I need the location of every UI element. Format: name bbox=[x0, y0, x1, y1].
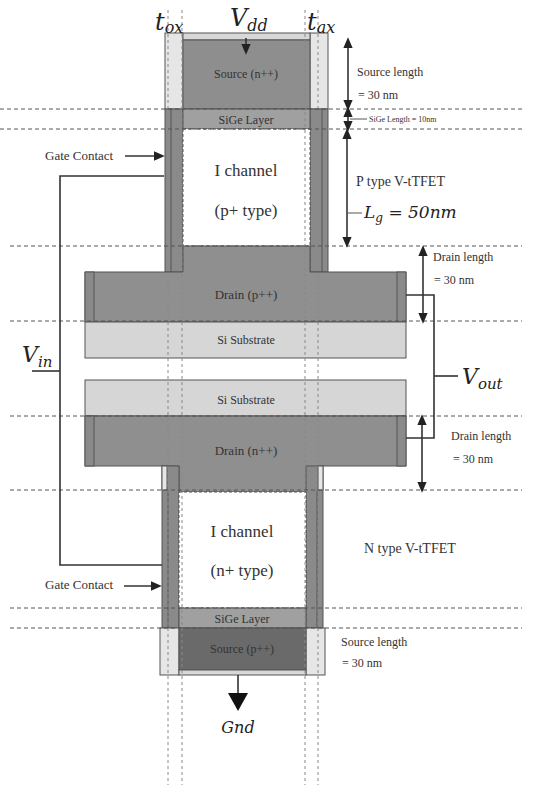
n-drain-length-label-2: = 30 nm bbox=[453, 452, 494, 466]
n-channel-label-2: (n+ type) bbox=[211, 561, 274, 580]
tox-left-label: tox bbox=[155, 8, 183, 37]
p-drain-contact-left bbox=[85, 272, 94, 322]
p-channel-label-2: (p+ type) bbox=[215, 201, 278, 220]
n-oxide-left-upper bbox=[162, 466, 167, 490]
p-substrate-label: Si Substrate bbox=[217, 333, 275, 347]
p-drain-length-label-2: = 30 nm bbox=[434, 273, 475, 287]
vdd-label: Vdd bbox=[230, 4, 268, 35]
lg-label: Lg = 50nm bbox=[363, 202, 457, 225]
vout-label: Vout bbox=[462, 364, 504, 393]
n-device-name: N type V-tTFET bbox=[364, 541, 456, 556]
p-source-label: Source (n++) bbox=[214, 67, 278, 81]
n-drain-contact-right bbox=[397, 416, 406, 466]
sige-length-label: SiGe Length = 10nm bbox=[369, 115, 437, 124]
n-channel bbox=[179, 492, 306, 608]
vin-label: Vin bbox=[22, 342, 52, 371]
p-drain-length-label-1: Drain length bbox=[433, 250, 493, 264]
gnd-label: Gnd bbox=[221, 718, 254, 737]
n-drain-label: Drain (n++) bbox=[215, 443, 278, 458]
p-channel bbox=[183, 129, 310, 246]
n-channel-label-1: I channel bbox=[211, 522, 274, 541]
p-drain-region bbox=[85, 246, 406, 322]
n-source-label: Source (p++) bbox=[210, 642, 274, 656]
p-device-name: P type V-tTFET bbox=[356, 174, 445, 189]
p-gate-right bbox=[310, 109, 328, 272]
p-type-device bbox=[85, 33, 406, 358]
p-drain-label: Drain (p++) bbox=[215, 287, 278, 302]
p-oxide-right-top bbox=[310, 33, 328, 109]
p-gate-contact-label: Gate Contact bbox=[45, 148, 114, 163]
n-source-cap bbox=[179, 670, 306, 675]
vin-wire bbox=[60, 176, 164, 565]
n-drain-contact-left bbox=[85, 416, 94, 466]
n-sige-label: SiGe Layer bbox=[215, 612, 270, 626]
n-oxide-right-upper bbox=[318, 466, 323, 490]
n-drain-length-label-1: Drain length bbox=[451, 429, 511, 443]
n-substrate-label: Si Substrate bbox=[217, 393, 275, 407]
n-oxide-right-bottom bbox=[306, 628, 325, 675]
tox-right-label: tax bbox=[307, 8, 335, 37]
vout-wire bbox=[406, 295, 434, 438]
gnd-triangle-icon bbox=[228, 693, 248, 711]
n-oxide-left-bottom bbox=[160, 628, 179, 675]
p-channel-label-1: I channel bbox=[215, 161, 278, 180]
p-source-length-label-1: Source length bbox=[357, 65, 423, 79]
n-source-length-label-1: Source length bbox=[341, 635, 407, 649]
p-sige-label: SiGe Layer bbox=[219, 113, 274, 127]
p-source-length-label-2: = 30 nm bbox=[358, 88, 399, 102]
n-source-length-label-2: = 30 nm bbox=[342, 656, 383, 670]
n-gate-contact-label: Gate Contact bbox=[45, 577, 114, 592]
p-drain-contact-right bbox=[397, 272, 406, 322]
cmos-inverter-diagram: tox Vdd tax Source (n++) SiGe Layer I ch… bbox=[0, 0, 535, 804]
